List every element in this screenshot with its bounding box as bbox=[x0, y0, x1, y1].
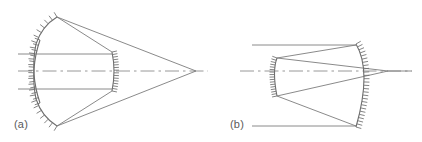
upper-primary-mirror-segment-hatch bbox=[44, 20, 48, 24]
upper-primary-mirror-segment-hatch bbox=[54, 12, 57, 17]
upper-primary-mirror-segment-hatch bbox=[30, 47, 35, 48]
optics-figure: (a) (b) bbox=[0, 0, 422, 142]
primary-mirror-hatch bbox=[362, 101, 367, 102]
primary-mirror-hatch bbox=[363, 65, 368, 66]
panel-a-label: (a) bbox=[14, 118, 28, 130]
panel-b-label: (b) bbox=[230, 118, 244, 130]
lower-primary-mirror-segment-hatch bbox=[31, 100, 36, 102]
primary-bottom-to-secondary-bottom bbox=[277, 96, 356, 126]
primary-mirror-hatch bbox=[361, 54, 366, 56]
secondary-top-to-focus bbox=[277, 58, 388, 71]
primary-mirror-hatch bbox=[358, 121, 363, 122]
primary-mirror-hatch bbox=[357, 124, 362, 125]
upper-primary-mirror-segment-hatch bbox=[37, 30, 42, 33]
primary-mirror-hatch bbox=[364, 68, 369, 69]
upper-primary-mirror-segment-hatch bbox=[30, 87, 35, 88]
secondary-mirror-hatch bbox=[270, 87, 275, 88]
lower-primary-mirror-segment-hatch bbox=[40, 115, 44, 118]
upper-primary-mirror-segment-hatch bbox=[34, 35, 39, 37]
primary-top-to-secondary-top bbox=[277, 45, 356, 58]
primary-mirror-hatch bbox=[360, 111, 365, 112]
primary-mirror-hatch bbox=[356, 127, 361, 129]
secondary-mirror-hatch bbox=[272, 96, 277, 97]
primary-mirror-hatch bbox=[363, 92, 368, 93]
primary-mirror-hatch bbox=[360, 51, 365, 53]
primary-mirror-hatch bbox=[359, 118, 364, 119]
upper-primary-mirror-segment-hatch bbox=[31, 41, 36, 43]
secondary-mirror-hatch bbox=[112, 51, 117, 52]
secondary-mirror-hatch bbox=[113, 56, 118, 57]
lower-primary-mirror-segment-hatch bbox=[37, 110, 42, 113]
lower-primary-mirror-segment-hatch bbox=[32, 49, 37, 50]
secondary-mirror-hatch bbox=[113, 54, 118, 55]
secondary-mirror-hatch bbox=[270, 84, 275, 85]
secondary-mirror-hatch bbox=[112, 91, 117, 92]
primary-mirror-hatch bbox=[363, 61, 368, 62]
primary-mirror-hatch bbox=[362, 98, 367, 99]
lower-primary-mirror-segment-hatch bbox=[30, 95, 35, 96]
primary-mirror-hatch bbox=[359, 48, 364, 50]
secondary-mirror-hatch bbox=[113, 83, 118, 84]
primary-mirror-hatch bbox=[356, 41, 361, 44]
upper-primary-mirror-segment-hatch bbox=[29, 53, 34, 54]
secondary-mirror-hatch bbox=[113, 59, 118, 60]
upper-primary-mirror-segment-hatch bbox=[40, 25, 44, 28]
secondary-mirror-hatch bbox=[270, 67, 275, 68]
secondary-mirror-hatch bbox=[271, 89, 276, 90]
panel-a-diagram bbox=[18, 12, 208, 130]
panel-b-diagram bbox=[240, 41, 412, 128]
upper-vertex-to-focus bbox=[57, 17, 196, 71]
secondary-mirror-hatch bbox=[271, 62, 276, 63]
primary-mirror-hatch bbox=[363, 95, 368, 96]
secondary-mirror-hatch bbox=[272, 56, 277, 58]
primary-mirror-hatch bbox=[361, 108, 366, 109]
secondary-mirror bbox=[112, 52, 114, 91]
lower-primary-mirror-segment-hatch bbox=[44, 119, 48, 123]
lower-primary-mirror-segment-hatch bbox=[54, 126, 57, 131]
upper-vertex-to-secondary-top bbox=[57, 17, 112, 52]
lower-primary-mirror-segment-hatch bbox=[49, 123, 52, 127]
secondary-mirror bbox=[275, 58, 278, 96]
lower-primary-mirror-segment-hatch bbox=[30, 55, 35, 56]
secondary-bottom-to-focus bbox=[277, 71, 388, 96]
secondary-mirror-hatch bbox=[271, 91, 276, 92]
secondary-mirror-hatch bbox=[112, 88, 117, 89]
lower-vertex-to-secondary-bottom bbox=[57, 91, 112, 126]
secondary-mirror-hatch bbox=[270, 64, 275, 65]
primary-mirror-hatch bbox=[358, 44, 363, 46]
lower-primary-mirror-segment-hatch bbox=[34, 106, 39, 108]
upper-primary-mirror-segment-hatch bbox=[49, 16, 52, 20]
figure-canvas: (a) (b) bbox=[0, 0, 422, 142]
lower-vertex-to-focus bbox=[57, 71, 196, 126]
primary-mirror-hatch bbox=[359, 114, 364, 115]
secondary-mirror-hatch bbox=[113, 86, 118, 87]
primary-mirror-hatch bbox=[362, 58, 367, 59]
primary-mirror-hatch bbox=[361, 105, 366, 106]
secondary-mirror-hatch bbox=[272, 94, 277, 95]
lower-primary-mirror-segment-hatch bbox=[29, 89, 34, 90]
upper-primary-mirror-segment-hatch bbox=[32, 92, 37, 93]
secondary-mirror-hatch bbox=[271, 59, 276, 60]
